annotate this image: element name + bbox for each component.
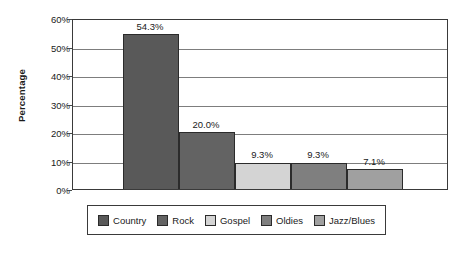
legend-swatch-icon	[98, 215, 109, 226]
legend-item-gospel[interactable]: Gospel	[205, 215, 250, 226]
legend-label: Country	[113, 215, 146, 226]
legend-item-country[interactable]: Country	[98, 215, 146, 226]
bar-chart-figure: Percentage 0%10%20%30%40%50%60% 54.3%20.…	[0, 0, 472, 255]
legend-label: Oldies	[276, 215, 303, 226]
bar-data-label: 9.3%	[307, 149, 329, 160]
legend-swatch-icon	[205, 215, 216, 226]
legend-item-rock[interactable]: Rock	[157, 215, 194, 226]
legend-item-oldies[interactable]: Oldies	[261, 215, 303, 226]
bar-data-labels: 54.3%20.0%9.3%9.3%7.1%	[72, 19, 448, 190]
chart-legend: CountryRockGospelOldiesJazz/Blues	[87, 205, 386, 235]
legend-label: Rock	[172, 215, 194, 226]
bar-data-label: 20.0%	[193, 119, 220, 130]
bar-data-label: 9.3%	[251, 149, 273, 160]
legend-label: Gospel	[220, 215, 250, 226]
bar-data-label: 7.1%	[363, 156, 385, 167]
legend-swatch-icon	[314, 215, 325, 226]
legend-item-jazz-blues[interactable]: Jazz/Blues	[314, 215, 375, 226]
legend-label: Jazz/Blues	[329, 215, 375, 226]
bar-data-label: 54.3%	[137, 21, 164, 32]
y-axis-major-tick	[67, 190, 72, 191]
legend-swatch-icon	[157, 215, 168, 226]
legend-swatch-icon	[261, 215, 272, 226]
